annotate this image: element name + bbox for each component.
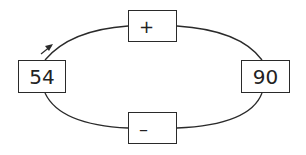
arc-top-to-right <box>177 26 262 60</box>
plus-sign: + <box>139 16 154 37</box>
top-operation-box: + <box>128 10 177 42</box>
right-number-box: 90 <box>241 60 290 93</box>
direction-arrow-icon <box>41 44 53 54</box>
arc-left-to-top <box>45 26 128 60</box>
right-number: 90 <box>253 65 278 89</box>
bottom-operation-box: – <box>128 112 177 144</box>
minus-sign: – <box>139 118 148 139</box>
arc-bottom-to-right <box>177 93 262 128</box>
arc-left-to-bottom <box>45 93 128 128</box>
left-number: 54 <box>29 65 54 89</box>
left-number-box: 54 <box>18 60 66 93</box>
